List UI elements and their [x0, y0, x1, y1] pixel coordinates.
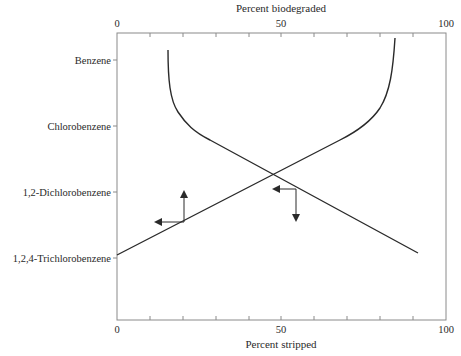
category-label-dichlorobenzene: 1,2-Dichlorobenzene — [23, 187, 112, 198]
biodegraded-annotation-arrows — [276, 189, 296, 218]
category-label-benzene: Benzene — [75, 55, 111, 66]
top-tick-50: 50 — [276, 18, 287, 29]
biodegraded-curve — [168, 50, 418, 253]
chart: Percent biodegraded 0 50 100 Benzene — [0, 0, 461, 356]
top-axis-title: Percent biodegraded — [236, 2, 327, 14]
top-tick-0: 0 — [114, 18, 119, 29]
bottom-tick-50: 50 — [276, 324, 287, 335]
plot-frame — [117, 33, 446, 320]
category-label-chlorobenzene: Chlorobenzene — [47, 121, 111, 132]
stripped-annotation-arrows — [158, 194, 184, 222]
category-label-trichlorobenzene: 1,2,4-Trichlorobenzene — [13, 253, 112, 264]
bottom-axis-title: Percent stripped — [245, 338, 317, 350]
top-axis-ticks — [150, 33, 413, 37]
bottom-tick-0: 0 — [114, 324, 119, 335]
bottom-axis-ticks — [150, 316, 413, 320]
top-tick-100: 100 — [438, 18, 454, 29]
bottom-tick-100: 100 — [438, 324, 454, 335]
left-axis-ticks — [113, 60, 117, 258]
